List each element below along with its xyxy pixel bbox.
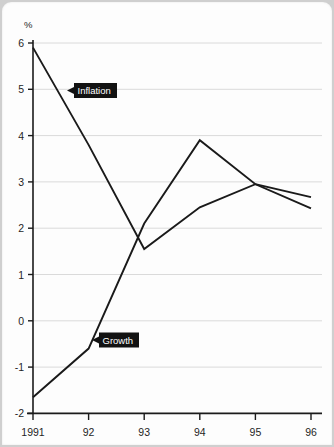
x-tick-labels: 1991 92 93 94 95 96 [21, 426, 317, 438]
y-tick-label: 3 [18, 176, 24, 188]
x-tick-label: 95 [250, 426, 262, 438]
annotation-inflation: Inflation [67, 83, 117, 98]
y-tick-label: 4 [18, 130, 24, 142]
y-tick-label: -2 [15, 407, 24, 419]
y-tick-label: 0 [18, 315, 24, 327]
y-tick-label: -1 [15, 361, 24, 373]
annotation-growth: Growth [92, 333, 139, 348]
y-tick-label: 1 [18, 269, 24, 281]
arrow-left-icon [67, 87, 75, 95]
y-axis-title: % [24, 19, 33, 30]
y-tick-label: 6 [18, 37, 24, 49]
series-line-growth [33, 140, 311, 397]
y-tick-labels: 6 5 4 3 2 1 0 -1 -2 [15, 37, 25, 419]
x-tick-label: 93 [138, 426, 150, 438]
series-line-inflation [33, 48, 311, 249]
x-tick-label: 94 [194, 426, 206, 438]
y-tick-label: 5 [18, 83, 24, 95]
x-tick-marks [33, 413, 311, 420]
x-tick-label: 1991 [21, 426, 45, 438]
y-tick-label: 2 [18, 222, 24, 234]
line-chart: % 6 5 4 3 2 1 0 -1 -2 1991 92 93 94 95 9… [0, 0, 334, 447]
x-tick-label: 96 [305, 426, 317, 438]
annotation-label: Growth [103, 335, 134, 346]
chart-screenshot: % 6 5 4 3 2 1 0 -1 -2 1991 92 93 94 95 9… [0, 0, 334, 447]
x-tick-label: 92 [83, 426, 95, 438]
annotation-label: Inflation [78, 85, 111, 96]
